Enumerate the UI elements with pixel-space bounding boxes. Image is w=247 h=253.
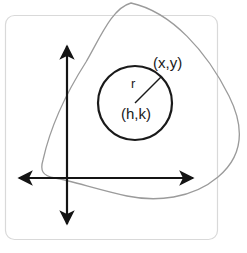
center-hk-label: (h,k) <box>121 105 151 122</box>
radius-label: r <box>131 76 136 91</box>
panel-border <box>6 16 218 240</box>
point-xy-label: (x,y) <box>153 54 182 71</box>
radius-line <box>135 77 161 103</box>
figure-canvas: (x,y) r (h,k) <box>0 0 247 253</box>
blob-outline <box>42 3 239 199</box>
circle-diagram: (x,y) r (h,k) <box>0 0 247 253</box>
